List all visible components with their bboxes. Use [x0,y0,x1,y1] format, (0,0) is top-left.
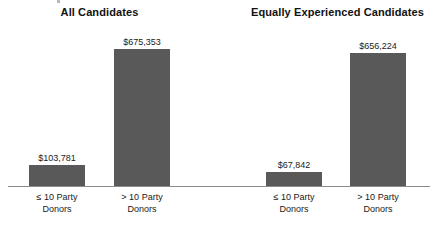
bar-right-le10-party-donors [266,172,322,186]
panel-title-all-candidates: All Candidates [0,6,207,18]
x-tick-label-right-gt10-line2: Donors [350,203,406,215]
bar-group-left-le10: $103,781 [29,30,85,186]
x-tick-label-right-gt10: > 10 Party Donors [350,191,406,215]
x-tick-label-left-le10-line2: Donors [29,203,85,215]
x-tick-label-right-le10-line2: Donors [266,203,322,215]
x-tick-label-left-gt10: > 10 Party Donors [114,191,170,215]
x-tick-label-right-gt10-line1: > 10 Party [350,191,406,203]
x-tick-label-right-le10: ≤ 10 Party Donors [266,191,322,215]
bar-value-left-gt10: $675,353 [123,37,161,48]
plot-area-right: $67,842 $656,224 [222,30,437,186]
chart-panel-all-candidates: All Candidates $103,781 $675,353 ≤ 10 Pa… [0,0,215,228]
x-tick-label-left-gt10-line2: Donors [114,203,170,215]
bar-chart-figure: All Candidates $103,781 $675,353 ≤ 10 Pa… [0,0,437,228]
bar-left-le10-party-donors [29,165,85,186]
x-tick-label-left-gt10-line1: > 10 Party [114,191,170,203]
plot-area-left: $103,781 $675,353 [0,30,215,186]
bar-value-left-le10: $103,781 [38,153,76,164]
bar-group-left-gt10: $675,353 [114,30,170,186]
x-tick-label-left-le10-line1: ≤ 10 Party [29,191,85,203]
bar-right-gt10-party-donors [350,53,406,186]
x-tick-label-right-le10-line1: ≤ 10 Party [266,191,322,203]
bar-group-right-gt10: $656,224 [350,30,406,186]
panel-title-equally-experienced: Equally Experienced Candidates [230,6,437,18]
chart-panel-equally-experienced: Equally Experienced Candidates $67,842 $… [222,0,437,228]
x-tick-label-left-le10: ≤ 10 Party Donors [29,191,85,215]
bar-group-right-le10: $67,842 [266,30,322,186]
bar-value-right-gt10: $656,224 [359,41,397,52]
x-axis-baseline [8,186,430,187]
bar-left-gt10-party-donors [114,49,170,186]
bar-value-right-le10: $67,842 [278,160,311,171]
